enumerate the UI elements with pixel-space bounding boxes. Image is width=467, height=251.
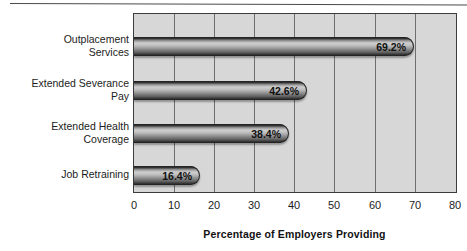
bar-chart: 69.2% 42.6% 38.4% 16.4% Outplacement Ser… xyxy=(0,0,467,251)
category-label-outplacement-services: Outplacement Services xyxy=(4,33,129,58)
bar-value-label: 38.4% xyxy=(251,128,281,140)
bar-value-label: 16.4% xyxy=(162,170,192,182)
xtick-80: 80 xyxy=(440,199,467,211)
bar-job-retraining: 16.4% xyxy=(134,166,200,185)
category-label-job-retraining: Job Retraining xyxy=(4,168,129,181)
page-divider-rule xyxy=(10,3,467,5)
xtick-10: 10 xyxy=(159,199,189,211)
plot-area: 69.2% 42.6% 38.4% 16.4% xyxy=(133,13,457,193)
xtick-50: 50 xyxy=(319,199,349,211)
category-label-extended-severance-pay: Extended Severance Pay xyxy=(4,77,129,102)
xtick-70: 70 xyxy=(400,199,430,211)
xtick-0: 0 xyxy=(119,199,149,211)
xtick-40: 40 xyxy=(279,199,309,211)
bar-value-label: 42.6% xyxy=(269,85,299,97)
bar-extended-severance-pay: 42.6% xyxy=(134,81,307,100)
xtick-20: 20 xyxy=(199,199,229,211)
xtick-30: 30 xyxy=(239,199,269,211)
bar-value-label: 69.2% xyxy=(376,41,406,53)
x-axis-title: Percentage of Employers Providing xyxy=(0,228,467,240)
xtick-60: 60 xyxy=(360,199,390,211)
bar-extended-health-coverage: 38.4% xyxy=(134,124,289,143)
bar-outplacement-services: 69.2% xyxy=(134,37,414,56)
gridline-70 xyxy=(415,14,416,192)
category-label-extended-health-coverage: Extended Health Coverage xyxy=(4,120,129,145)
